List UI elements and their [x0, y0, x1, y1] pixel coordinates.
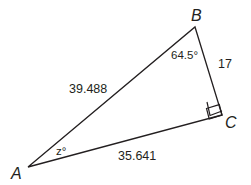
side-label-bc: 17 [218, 57, 232, 71]
angle-label-a: z° [56, 145, 66, 157]
vertex-label-c: C [225, 114, 237, 131]
vertex-label-a: A [10, 165, 22, 182]
angle-label-b: 64.5° [171, 49, 198, 61]
triangle-diagram: B C A 39.488 17 35.641 64.5° z° [0, 0, 251, 185]
vertex-label-b: B [191, 7, 202, 24]
side-label-ac: 35.641 [118, 149, 156, 163]
side-label-ab: 39.488 [69, 82, 107, 96]
